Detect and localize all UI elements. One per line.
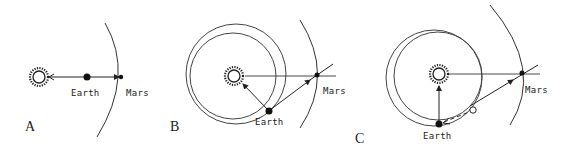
- earth-to-mars-line: [470, 80, 513, 106]
- panel-a-earth-label: Earth: [71, 88, 100, 98]
- orbital-diagram: [0, 0, 575, 152]
- earth-dot: [84, 74, 91, 81]
- line-beyond-mars: [513, 65, 538, 80]
- sun-icon: [30, 68, 48, 86]
- panel-c: [386, 5, 540, 128]
- panel-b-letter: B: [170, 119, 179, 135]
- panel-c-earth-label: Earth: [423, 131, 452, 141]
- sun-icon: [225, 67, 243, 85]
- line-beyond-mars: [310, 64, 333, 80]
- earth-to-mars-line: [270, 80, 310, 110]
- earth-dot: [266, 108, 273, 115]
- panel-b-earth-label: Earth: [255, 117, 284, 127]
- mars-orbit-arc: [490, 5, 524, 125]
- panel-b-mars-label: Mars: [323, 86, 346, 96]
- mars-dot: [119, 75, 123, 79]
- mars-dot: [520, 71, 525, 76]
- sun-icon: [430, 65, 448, 83]
- earth-dot: [436, 121, 443, 128]
- mars-dot: [315, 73, 320, 78]
- panel-b: [186, 20, 336, 128]
- earth-to-sun-line: [243, 84, 268, 110]
- panel-a-letter: A: [25, 119, 35, 135]
- panel-a: [30, 23, 123, 137]
- panel-c-letter: C: [355, 131, 364, 147]
- spacecraft-circle: [470, 107, 476, 113]
- mars-orbit-arc: [97, 23, 118, 137]
- panel-a-mars-label: Mars: [126, 88, 149, 98]
- panel-c-mars-label: Mars: [525, 85, 548, 95]
